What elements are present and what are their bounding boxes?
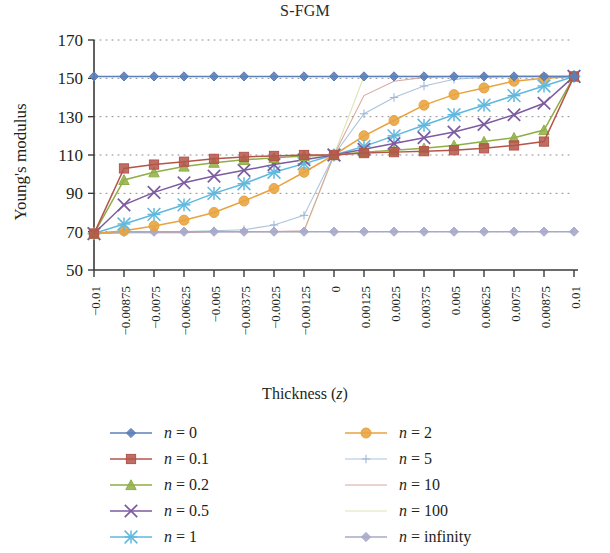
legend-label: n = 0.2: [164, 476, 209, 494]
legend-item-n-0[interactable]: n = 0: [108, 420, 323, 446]
data-point-diamond: [179, 72, 188, 81]
legend-marker-icon: [108, 476, 154, 494]
x-tick-label: 0.0075: [508, 286, 523, 322]
data-point-circle: [149, 221, 159, 231]
legend-item-n-infinity[interactable]: n = infinity: [343, 524, 558, 550]
data-point-circle: [269, 184, 279, 194]
data-point-diamond: [449, 227, 458, 236]
x-tick-label: 0.00875: [538, 286, 553, 328]
legend-label: n = 0.5: [164, 502, 209, 520]
y-tick-label: 130: [58, 108, 84, 127]
data-point-square: [509, 141, 518, 150]
data-point-square: [449, 146, 458, 155]
data-point-square: [419, 147, 428, 156]
data-point-square: [89, 229, 98, 238]
legend-marker-icon: [343, 528, 389, 546]
legend-label: n = 0: [164, 424, 197, 442]
legend-item-n-0-2[interactable]: n = 0.2: [108, 472, 323, 498]
data-point-cross: [208, 170, 220, 182]
data-point-diamond: [389, 72, 398, 81]
data-point-diamond: [119, 72, 128, 81]
data-point-cross: [478, 118, 490, 130]
y-tick-label: 170: [58, 31, 84, 50]
data-point-cross: [148, 186, 160, 198]
data-point-diamond: [419, 227, 428, 236]
data-point-diamond: [389, 227, 398, 236]
x-tick-label: 0: [328, 286, 343, 293]
data-point-diamond: [359, 227, 368, 236]
data-point-square: [119, 164, 128, 173]
data-point-diamond: [359, 72, 368, 81]
data-point-asterisk: [508, 89, 521, 102]
data-point-diamond: [539, 227, 548, 236]
data-point-square: [329, 150, 338, 159]
x-tick-label: −0.0075: [148, 286, 163, 329]
y-tick-label: 50: [66, 261, 83, 280]
data-point-cross: [238, 164, 250, 176]
data-point-diamond: [329, 72, 338, 81]
series-n-0: [89, 72, 578, 81]
data-point-circle: [419, 100, 429, 110]
chart-legend: n = 0n = 2n = 0.1n = 5n = 0.2n = 10n = 0…: [108, 420, 608, 550]
x-tick-label: −0.00625: [178, 286, 193, 336]
data-point-asterisk: [478, 99, 491, 112]
data-point-asterisk: [238, 177, 251, 190]
data-point-asterisk: [268, 166, 281, 179]
x-tick-label: 0.00375: [418, 286, 433, 328]
legend-marker-icon: [108, 424, 154, 442]
legend-marker-icon: [343, 502, 389, 520]
data-point-plus: [360, 110, 368, 118]
legend-label: n = 5: [399, 450, 432, 468]
data-point-circle: [239, 196, 249, 206]
x-tick-label: 0.01: [568, 286, 583, 309]
legend-label: n = 100: [399, 502, 448, 520]
data-point-plus: [420, 82, 428, 90]
legend-item-n-1[interactable]: n = 1: [108, 524, 323, 550]
data-point-square: [359, 148, 368, 157]
data-point-circle: [389, 116, 399, 126]
data-point-cross: [448, 126, 460, 138]
legend-item-n-10[interactable]: n = 10: [343, 472, 558, 498]
legend-item-n-0-5[interactable]: n = 0.5: [108, 498, 323, 524]
data-point-asterisk: [388, 129, 401, 142]
data-point-circle: [361, 428, 371, 438]
data-point-asterisk: [418, 119, 431, 132]
data-point-asterisk: [178, 198, 191, 211]
legend-item-n-0-1[interactable]: n = 0.1: [108, 446, 323, 472]
legend-item-n-2[interactable]: n = 2: [343, 420, 558, 446]
series-n-0-1: [89, 72, 578, 238]
data-point-diamond: [361, 532, 370, 541]
data-point-circle: [359, 131, 369, 141]
data-point-diamond: [239, 227, 248, 236]
data-point-diamond: [149, 72, 158, 81]
data-point-asterisk: [125, 531, 138, 544]
legend-marker-icon: [108, 502, 154, 520]
x-tick-label: −0.005: [208, 286, 223, 323]
data-point-square: [179, 157, 188, 166]
data-point-diamond: [419, 72, 428, 81]
data-point-square: [389, 148, 398, 157]
legend-item-n-100[interactable]: n = 100: [343, 498, 558, 524]
x-tick-label: −0.00125: [298, 286, 313, 336]
plot-area: 507090110130150170−0.01−0.00875−0.0075−0…: [0, 0, 610, 410]
x-tick-label: 0.00125: [358, 286, 373, 328]
legend-marker-icon: [108, 450, 154, 468]
legend-marker-icon: [343, 450, 389, 468]
data-point-square: [299, 150, 308, 159]
data-point-diamond: [209, 72, 218, 81]
data-point-plus: [362, 455, 370, 463]
x-tick-label: −0.00875: [118, 286, 133, 336]
legend-marker-icon: [343, 424, 389, 442]
legend-item-n-5[interactable]: n = 5: [343, 446, 558, 472]
data-point-diamond: [269, 227, 278, 236]
data-point-diamond: [329, 227, 338, 236]
y-tick-label: 90: [66, 184, 83, 203]
data-point-diamond: [569, 227, 578, 236]
data-point-diamond: [89, 72, 98, 81]
data-point-cross: [118, 199, 130, 211]
data-point-square: [209, 154, 218, 163]
y-tick-label: 110: [58, 146, 83, 165]
x-tick-label: 0.005: [448, 286, 463, 315]
data-point-diamond: [509, 227, 518, 236]
chart-figure: S-FGM Young's modulus Thickness (z) 5070…: [0, 0, 610, 553]
